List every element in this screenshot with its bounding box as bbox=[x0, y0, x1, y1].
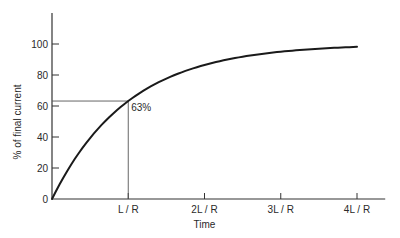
annotation-63-percent: 63% bbox=[131, 102, 151, 113]
x-tick-label: 3L / R bbox=[268, 204, 294, 215]
axis-labels: 020406080100L / R2L / R3L / R4L / R63%Ti… bbox=[12, 39, 370, 231]
x-tick-label: L / R bbox=[118, 204, 139, 215]
axes bbox=[52, 13, 385, 199]
y-tick-label: 40 bbox=[37, 132, 49, 143]
y-tick-label: 20 bbox=[37, 163, 49, 174]
x-tick-label: 4L / R bbox=[344, 204, 370, 215]
y-tick-label: 60 bbox=[37, 101, 49, 112]
annotation-guides bbox=[52, 101, 128, 199]
y-tick-label: 80 bbox=[37, 70, 49, 81]
y-axis-title: % of final current bbox=[12, 84, 23, 159]
y-tick-label: 0 bbox=[42, 194, 48, 205]
x-axis-title: Time bbox=[194, 219, 216, 230]
x-tick-label: 2L / R bbox=[191, 204, 217, 215]
rl-current-rise-chart: 020406080100L / R2L / R3L / R4L / R63%Ti… bbox=[0, 0, 400, 238]
y-tick-label: 100 bbox=[31, 39, 48, 50]
data-series bbox=[52, 47, 357, 199]
current-curve bbox=[52, 47, 357, 199]
